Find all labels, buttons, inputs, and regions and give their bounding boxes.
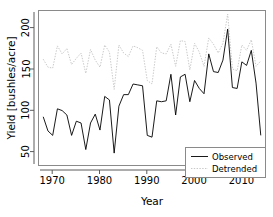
plot-frame [39, 11, 266, 166]
legend[interactable]: Observed Detrended [186, 148, 266, 178]
chart-figure: 50 100 150 200 Yield [bushles/acre] 1970… [0, 0, 273, 217]
series-detrended [43, 14, 261, 89]
detrended-line [43, 14, 261, 89]
y-tick-label-100: 100 [21, 101, 32, 120]
series-observed [43, 29, 261, 153]
y-tick-label-150: 150 [21, 59, 32, 78]
chart-svg: 50 100 150 200 Yield [bushles/acre] 1970… [0, 0, 273, 217]
legend-label-observed[interactable]: Observed [212, 152, 253, 162]
y-tick-label-50: 50 [21, 145, 32, 158]
x-tick-label-1970: 1970 [39, 175, 64, 186]
y-axis-title: Yield [bushles/acre] [5, 36, 17, 140]
y-axis: 50 100 150 200 Yield [bushles/acre] [5, 12, 34, 164]
y-tick-label-200: 200 [21, 18, 32, 37]
x-tick-label-1980: 1980 [87, 175, 112, 186]
legend-label-detrended[interactable]: Detrended [212, 164, 257, 174]
x-axis-title: Year [140, 195, 164, 207]
x-tick-label-1990: 1990 [134, 175, 159, 186]
observed-line [43, 29, 261, 153]
